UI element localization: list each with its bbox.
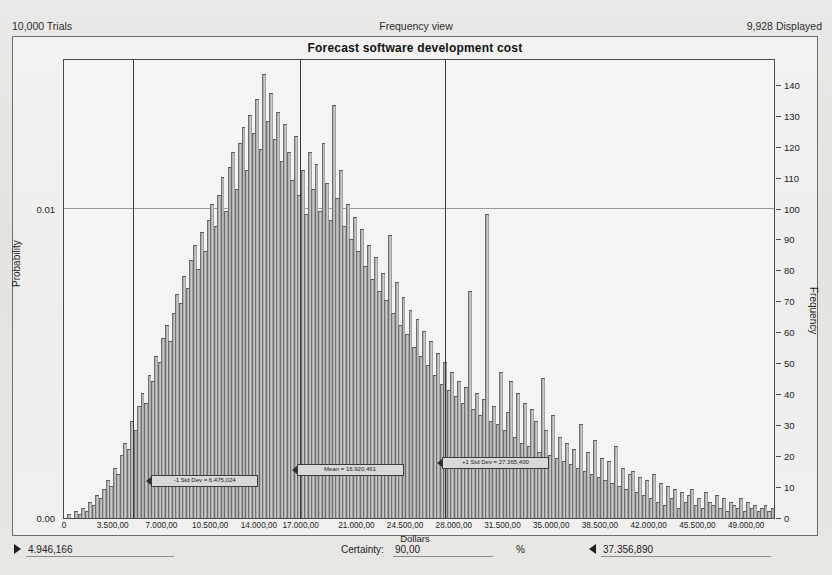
y-right-tick-label: 100: [784, 203, 800, 214]
chart-status-bar: 10,000 Trials Frequency view 9,928 Displ…: [0, 18, 832, 34]
x-tick-label: 10.500,00: [192, 521, 228, 530]
stat-marker-mean[interactable]: Mean = 16.920,461: [292, 464, 404, 475]
maximum-value-input[interactable]: [601, 543, 771, 557]
y-right-tick-mark: [776, 301, 781, 302]
y-right-tick-mark: [776, 178, 781, 179]
stat-marker-minus-one-std-dev[interactable]: -1 Std Dev = 6.475,024: [146, 475, 258, 486]
x-tick-label: 3.500,00: [97, 521, 129, 530]
y-right-tick-label: 60: [784, 327, 795, 338]
y-right-tick-label: 90: [784, 234, 795, 245]
y-right-tick-label: 10: [784, 482, 795, 493]
displayed-count: 9,928 Displayed: [747, 18, 822, 34]
y-right-tick-mark: [776, 239, 781, 240]
marker-label: Mean = 16.920,461: [297, 464, 404, 476]
histogram-bar: [67, 514, 71, 518]
x-tick-label: 35.000,00: [533, 521, 569, 530]
x-tick-label: 14.000,00: [241, 521, 277, 530]
marker-label: +1 Std Dev = 27.365,400: [442, 457, 549, 469]
y-right-tick-label: 130: [784, 110, 800, 121]
certainty-label: Certainty:: [341, 543, 384, 557]
chart-title: Forecast software development cost: [13, 41, 817, 55]
y-right-tick-mark: [776, 85, 781, 86]
x-tick-label: 7.000,00: [146, 521, 178, 530]
y-right-tick-mark: [776, 332, 781, 333]
certainty-upper-line[interactable]: [445, 60, 446, 518]
y-right-tick-label: 0: [784, 513, 789, 524]
y-axis-left-ticks: 0.000.01: [13, 59, 61, 519]
certainty-control-bar: Certainty: %: [0, 543, 832, 561]
y-right-tick-mark: [776, 394, 781, 395]
lower-grabber-handle[interactable]: [14, 544, 21, 554]
y-right-tick-label: 140: [784, 79, 800, 90]
minimum-value-input[interactable]: [26, 543, 174, 557]
y-right-tick-mark: [776, 456, 781, 457]
view-mode-label: Frequency view: [0, 18, 832, 34]
upper-grabber-handle[interactable]: [589, 544, 596, 554]
x-tick-label: 45.500,00: [679, 521, 715, 530]
y-right-tick-label: 80: [784, 265, 795, 276]
y-right-tick-mark: [776, 518, 781, 519]
x-tick-label: 31.500,00: [484, 521, 520, 530]
percent-symbol: %: [516, 543, 525, 557]
x-tick-label: 17.000,00: [282, 521, 318, 530]
y-right-tick-mark: [776, 270, 781, 271]
y-right-tick-label: 50: [784, 358, 795, 369]
x-tick-label: 28.000,00: [436, 521, 472, 530]
y-left-tick-label: 0.01: [37, 203, 56, 214]
y-right-tick-mark: [776, 363, 781, 364]
y-right-tick-label: 40: [784, 389, 795, 400]
histogram-plot-area[interactable]: -1 Std Dev = 6.475,024Mean = 16.920,461+…: [63, 59, 775, 519]
y-right-tick-label: 70: [784, 296, 795, 307]
y-right-tick-label: 30: [784, 420, 795, 431]
y-right-tick-mark: [776, 209, 781, 210]
y-right-tick-label: 120: [784, 141, 800, 152]
histogram-bars: [64, 60, 774, 518]
y-right-tick-label: 20: [784, 451, 795, 462]
y-right-tick-mark: [776, 147, 781, 148]
x-tick-label: 42.000,00: [630, 521, 666, 530]
y-right-tick-mark: [776, 487, 781, 488]
x-tick-label: 38.500,00: [582, 521, 618, 530]
certainty-input[interactable]: [393, 543, 493, 557]
x-tick-label: 0: [62, 521, 67, 530]
y-right-tick-mark: [776, 425, 781, 426]
x-tick-label: 21.000,00: [338, 521, 374, 530]
marker-label: -1 Std Dev = 6.475,024: [151, 475, 258, 487]
stat-marker-plus-one-std-dev[interactable]: +1 Std Dev = 27.365,400: [437, 457, 549, 468]
histogram-bar: [774, 502, 775, 518]
y-right-tick-mark: [776, 116, 781, 117]
certainty-mean-line[interactable]: [300, 60, 301, 518]
x-tick-label: 49.000,00: [728, 521, 764, 530]
y-left-tick-label: 0.00: [37, 513, 56, 524]
forecast-chart-frame: Forecast software development cost Proba…: [12, 36, 818, 536]
x-tick-label: 24.500,00: [387, 521, 423, 530]
certainty-lower-line[interactable]: [133, 60, 134, 518]
y-right-tick-label: 110: [784, 172, 799, 183]
y-axis-right-ticks: 0102030405060708090100110120130140: [776, 59, 822, 519]
